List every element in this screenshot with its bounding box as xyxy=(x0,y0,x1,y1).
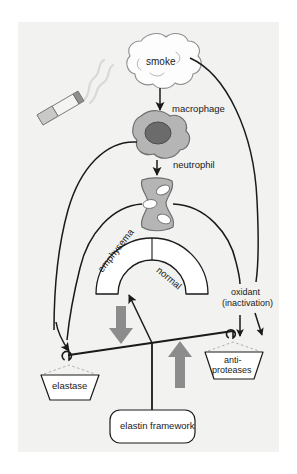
label-smoke: smoke xyxy=(146,56,175,68)
cigarette xyxy=(37,91,84,125)
label-neutrophil: neutrophil xyxy=(173,160,215,171)
smoke-wisp xyxy=(84,60,113,103)
oxidant-arrows xyxy=(240,313,262,336)
neutrophil-cell xyxy=(141,178,173,231)
arch-feedback-arrow xyxy=(129,295,152,343)
label-elastase: elastase xyxy=(52,381,87,392)
label-oxidant: oxidant xyxy=(231,287,260,297)
label-antiproteases-line2: proteases xyxy=(212,365,252,375)
increase-arrow xyxy=(168,341,192,388)
diagram-canvas xyxy=(0,0,297,474)
emphysema-pathogenesis-figure: smoke macrophage neutrophil emphysema no… xyxy=(0,0,297,474)
label-macrophage: macrophage xyxy=(172,104,225,115)
label-elastin-framework: elastin framework xyxy=(120,421,194,432)
label-antiproteases-line1: anti- xyxy=(224,355,242,365)
decrease-arrow xyxy=(109,306,133,344)
macrophage-cell xyxy=(133,111,190,158)
label-inactivation: (inactivation) xyxy=(222,298,273,308)
